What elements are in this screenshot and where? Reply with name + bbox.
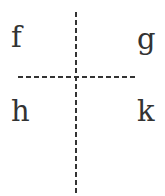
label-bottom-left: h: [11, 97, 30, 126]
label-top-right: g: [137, 25, 156, 54]
label-top-left: f: [11, 23, 22, 52]
quadrant-diagram: f g h k: [0, 0, 165, 196]
label-bottom-right: k: [137, 97, 155, 126]
